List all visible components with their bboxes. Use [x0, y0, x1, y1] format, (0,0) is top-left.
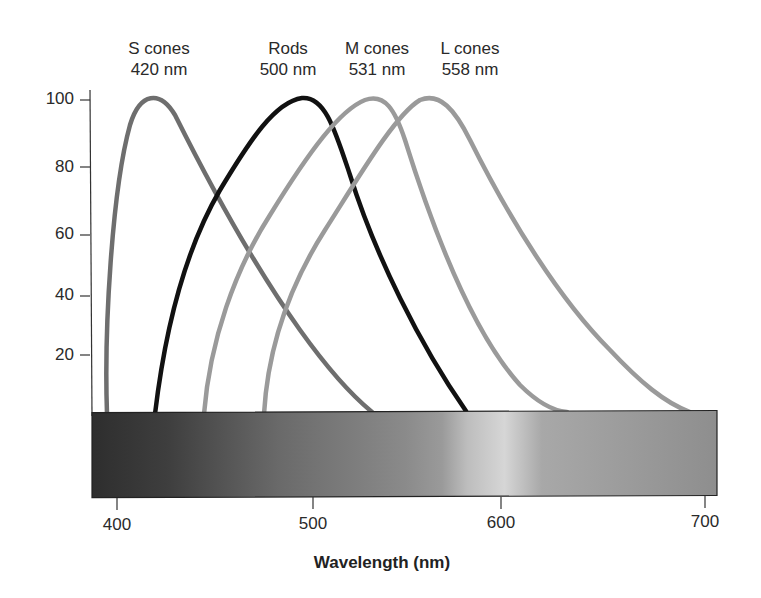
x-tick-700: 700: [675, 512, 735, 532]
spectrum-bar: [92, 410, 717, 497]
x-tick-400: 400: [87, 515, 147, 535]
label-l-cones: L cones 558 nm: [427, 38, 513, 80]
y-tick-40: 40: [34, 285, 74, 305]
s-cones-curve: [106, 98, 372, 414]
label-m-cones: M cones 531 nm: [334, 38, 420, 80]
x-tick-500: 500: [283, 514, 343, 534]
s-cones-peak: 420 nm: [116, 59, 202, 80]
m-cones-peak: 531 nm: [334, 59, 420, 80]
label-s-cones: S cones 420 nm: [116, 38, 202, 80]
y-axis-line: [90, 90, 92, 416]
y-tick-20: 20: [34, 345, 74, 365]
l-cones-peak: 558 nm: [427, 59, 513, 80]
x-axis-ticks: [117, 496, 705, 510]
l-cones-name: L cones: [427, 38, 513, 59]
y-tick-80: 80: [34, 157, 74, 177]
s-cones-name: S cones: [116, 38, 202, 59]
y-tick-100: 100: [34, 89, 74, 109]
y-axis-ticks: [80, 100, 90, 355]
m-cones-curve: [204, 98, 567, 414]
x-tick-600: 600: [471, 513, 531, 533]
m-cones-name: M cones: [334, 38, 420, 59]
chart-canvas: [0, 0, 761, 598]
rods-peak: 500 nm: [248, 59, 328, 80]
y-tick-60: 60: [34, 224, 74, 244]
x-axis-title: Wavelength (nm): [232, 553, 532, 573]
label-rods: Rods 500 nm: [248, 38, 328, 80]
rods-name: Rods: [248, 38, 328, 59]
